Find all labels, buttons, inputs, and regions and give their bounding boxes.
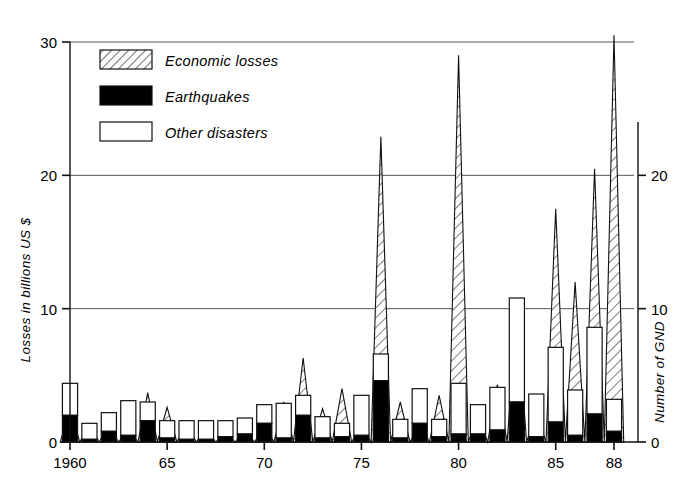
earthquakes-bar: [101, 431, 116, 442]
other-disasters-bar: [393, 419, 408, 438]
other-disasters-bar: [101, 413, 116, 432]
earthquakes-bar: [606, 431, 621, 442]
earthquakes-bar: [140, 421, 155, 442]
y-tick-label: 30: [40, 34, 57, 51]
earthquakes-bar: [587, 414, 602, 442]
y2-tick-label: 20: [651, 167, 668, 184]
y-tick-label: 10: [40, 301, 57, 318]
earthquakes-bar: [509, 402, 524, 442]
y-axis-title: Losses in billions US $: [18, 217, 33, 362]
earthquakes-bar: [548, 422, 563, 442]
other-disasters-bar: [334, 423, 349, 436]
y-tick-label: 0: [49, 434, 57, 451]
earthquakes-bar: [237, 434, 252, 442]
y2-axis-title: Number of GND: [652, 321, 667, 423]
earthquakes-bar: [373, 381, 388, 442]
legend-label: Earthquakes: [165, 89, 250, 105]
x-tick-label: 88: [606, 454, 623, 471]
earthquakes-bar: [568, 435, 583, 442]
legend-swatch-hatched: [100, 50, 152, 69]
other-disasters-bar: [412, 389, 427, 424]
other-disasters-bar: [509, 298, 524, 402]
x-tick-label: 80: [450, 454, 467, 471]
other-disasters-bar: [160, 421, 175, 438]
x-tick-label: 85: [547, 454, 564, 471]
other-disasters-bar: [82, 423, 97, 439]
earthquakes-bar: [451, 434, 466, 442]
other-disasters-bar: [218, 421, 233, 437]
other-disasters-bar: [140, 402, 155, 421]
earthquakes-bar: [296, 415, 311, 442]
y-tick-label: 20: [40, 167, 57, 184]
y2-tick-label: 0: [651, 434, 659, 451]
legend-label: Other disasters: [165, 125, 268, 141]
other-disasters-bar: [315, 417, 330, 438]
x-tick-label: 1960: [53, 454, 86, 471]
other-disasters-bar: [121, 401, 136, 436]
other-disasters-bar: [237, 418, 252, 434]
other-disasters-bar: [198, 421, 213, 440]
other-disasters-bar: [276, 403, 291, 438]
earthquakes-bar: [412, 423, 427, 442]
other-disasters-bar: [529, 394, 544, 437]
other-disasters-bar: [257, 405, 272, 424]
other-disasters-bar: [354, 395, 369, 435]
other-disasters-bar: [606, 399, 621, 431]
chart-figure: 0102030196065707580858801020 Losses in b…: [0, 0, 678, 499]
y2-tick-label: 10: [651, 301, 668, 318]
other-disasters-bar: [568, 390, 583, 435]
earthquakes-bar: [354, 435, 369, 442]
x-tick-label: 65: [159, 454, 176, 471]
other-disasters-bar: [179, 421, 194, 440]
earthquakes-bar: [490, 430, 505, 442]
disaster-losses-chart: 0102030196065707580858801020 Losses in b…: [0, 0, 678, 499]
other-disasters-bar: [296, 395, 311, 415]
earthquakes-bar: [470, 434, 485, 442]
other-disasters-bar: [470, 405, 485, 434]
legend-swatch-white: [100, 122, 152, 141]
other-disasters-bar: [548, 347, 563, 422]
other-disasters-bar: [490, 387, 505, 430]
other-disasters-bar: [432, 419, 447, 436]
other-disasters-bar: [373, 354, 388, 381]
other-disasters-bar: [451, 383, 466, 434]
x-tick-label: 75: [353, 454, 370, 471]
other-disasters-bar: [587, 327, 602, 414]
legend-label: Economic losses: [165, 53, 278, 69]
earthquakes-bar: [257, 423, 272, 442]
earthquakes-bar: [121, 435, 136, 442]
x-tick-label: 70: [256, 454, 273, 471]
legend-swatch-black: [100, 86, 152, 105]
